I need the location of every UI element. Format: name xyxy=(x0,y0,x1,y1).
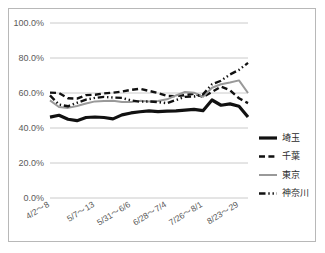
x-tick-label: 5/7～13 xyxy=(65,199,96,224)
y-tick-label: 80.0% xyxy=(18,53,44,63)
x-tick-label: 5/31～6/6 xyxy=(95,199,132,227)
chart-legend: 埼玉千葉東京神奈川 xyxy=(259,132,309,199)
x-tick-label: 8/23～29 xyxy=(205,199,240,226)
legend-label-3: 神奈川 xyxy=(282,187,309,198)
legend-label-0: 埼玉 xyxy=(282,132,300,143)
line-chart: 100.0%80.0%60.0%40.0%20.0%0.0% 4/2～85/7～… xyxy=(0,0,325,253)
data-series xyxy=(50,63,248,121)
legend-label-1: 千葉 xyxy=(282,150,300,161)
legend-label-2: 東京 xyxy=(282,169,300,180)
series-line-0 xyxy=(50,100,248,121)
y-tick-label: 40.0% xyxy=(18,123,44,133)
y-axis-tick-labels: 100.0%80.0%60.0%40.0%20.0%0.0% xyxy=(13,18,44,203)
y-tick-label: 100.0% xyxy=(13,18,44,28)
x-axis-tick-labels: 4/2～85/7～135/31～6/66/28～7/47/26～8/18/23～… xyxy=(24,199,240,227)
y-tick-label: 60.0% xyxy=(18,88,44,98)
y-tick-label: 20.0% xyxy=(18,158,44,168)
x-tick-label: 7/26～8/1 xyxy=(167,199,204,227)
chart-container: 100.0%80.0%60.0%40.0%20.0%0.0% 4/2～85/7～… xyxy=(0,0,325,253)
x-tick-label: 6/28～7/4 xyxy=(131,199,168,227)
